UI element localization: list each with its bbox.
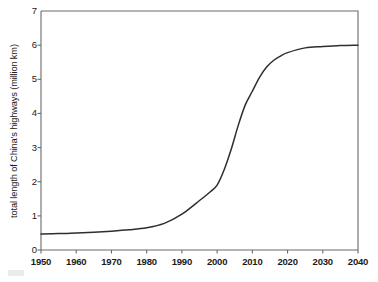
page-scan-artifact — [8, 270, 24, 276]
data-series-line — [41, 45, 358, 234]
plot-area — [0, 0, 378, 282]
chart-figure: total length of China's highways (millio… — [0, 0, 378, 282]
